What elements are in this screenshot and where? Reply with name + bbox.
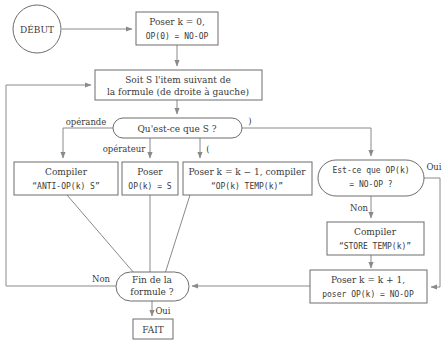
dec-k-line1: Poser k = k − 1, compiler bbox=[188, 167, 306, 177]
node-is-noop[interactable]: Est-ce que OP(k) = NO-OP ? bbox=[318, 160, 424, 196]
node-end-formula[interactable]: Fin de la formule ? bbox=[116, 272, 189, 301]
inc-k-line1: Poser k = k + 1, bbox=[331, 275, 405, 285]
what-is-s-label: Qu'est-ce que S ? bbox=[137, 124, 216, 134]
edge-dec-k-to-end-formula bbox=[163, 195, 190, 280]
compile-store-line1: Compiler bbox=[354, 227, 397, 237]
edge-label-open-paren: ( bbox=[206, 144, 209, 154]
edge-label-non-left: Non bbox=[92, 274, 111, 284]
edge-label-oui-bottom: Oui bbox=[155, 306, 170, 316]
node-init[interactable]: Poser k = 0, OP(0) = NO-OP bbox=[136, 12, 218, 45]
node-start[interactable]: DÉBUT bbox=[13, 5, 61, 53]
edge-label-close-paren: ) bbox=[248, 116, 251, 126]
edge-label-non-right: Non bbox=[350, 203, 369, 213]
compile-anti-line1: Compiler bbox=[45, 167, 88, 177]
node-done[interactable]: FAIT bbox=[133, 319, 173, 339]
edge-label-operande: opérande bbox=[66, 117, 107, 127]
done-label: FAIT bbox=[142, 325, 164, 335]
node-compile-anti[interactable]: Compiler “ANTI-OP(k) S” bbox=[14, 162, 118, 195]
is-noop-line1: Est-ce que OP(k) bbox=[332, 166, 409, 175]
compile-anti-line2: “ANTI-OP(k) S” bbox=[32, 182, 99, 191]
flowchart-page: DÉBUT Poser k = 0, OP(0) = NO-OP Soit S … bbox=[0, 0, 448, 350]
next-item-line1: Soit S l'item suivant de bbox=[125, 75, 231, 85]
node-next-item[interactable]: Soit S l'item suivant de la formule (de … bbox=[95, 70, 262, 100]
init-line2: OP(0) = NO-OP bbox=[146, 32, 209, 41]
is-noop-line2: = NO-OP ? bbox=[349, 180, 393, 189]
end-formula-line2: formule ? bbox=[130, 287, 173, 297]
compile-store-line2: “STORE TEMP(k)” bbox=[339, 242, 411, 251]
flowchart-canvas: DÉBUT Poser k = 0, OP(0) = NO-OP Soit S … bbox=[0, 0, 448, 350]
inc-k-line2: poser OP(k) = NO-OP bbox=[322, 290, 414, 299]
set-op-line1: Poser bbox=[137, 167, 163, 177]
node-compile-store[interactable]: Compiler “STORE TEMP(k)” bbox=[327, 222, 424, 255]
edge-compile-anti-to-end-formula bbox=[67, 195, 140, 280]
set-op-line2: OP(k) = S bbox=[128, 182, 172, 191]
node-set-op[interactable]: Poser OP(k) = S bbox=[122, 162, 178, 195]
edge-question-close-paren-to-is-noop bbox=[242, 128, 371, 156]
end-formula-line1: Fin de la bbox=[132, 275, 173, 285]
edge-label-operateur: opérateur bbox=[103, 144, 147, 154]
edge-label-oui-right: Oui bbox=[426, 162, 441, 172]
next-item-line2: la formule (de droite à gauche) bbox=[107, 87, 249, 97]
node-what-is-s[interactable]: Qu'est-ce que S ? bbox=[113, 118, 242, 138]
node-inc-k[interactable]: Poser k = k + 1, poser OP(k) = NO-OP bbox=[310, 270, 427, 303]
dec-k-line2: “OP(k) TEMP(k)” bbox=[211, 182, 283, 191]
init-line1: Poser k = 0, bbox=[149, 17, 205, 27]
node-dec-k[interactable]: Poser k = k − 1, compiler “OP(k) TEMP(k)… bbox=[183, 162, 312, 195]
start-label: DÉBUT bbox=[20, 24, 54, 35]
